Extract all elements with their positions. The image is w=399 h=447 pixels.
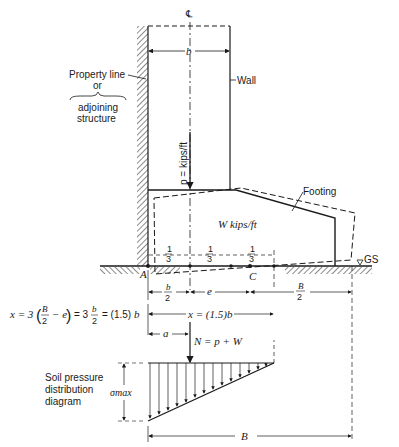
svg-text:2: 2 xyxy=(92,316,97,326)
property-line-label: Property line or adjoining structure xyxy=(69,69,146,124)
svg-text:2: 2 xyxy=(297,292,302,302)
svg-text:b: b xyxy=(134,308,140,320)
ground-surface-label: GS xyxy=(364,254,379,265)
svg-text:3: 3 xyxy=(207,254,212,264)
svg-text:B: B xyxy=(241,430,248,442)
load-label: p = kips/ft xyxy=(178,142,189,185)
eccentricity-dimension: b 2 e B 2 xyxy=(148,266,352,440)
svg-text:1: 1 xyxy=(250,244,255,254)
svg-text:e: e xyxy=(207,285,212,297)
load-arrow: p = kips/ft xyxy=(178,132,190,188)
svg-text:2: 2 xyxy=(165,293,170,303)
base-width-dimension: B xyxy=(148,426,351,442)
resultant-arrow: N = p + W xyxy=(190,322,243,362)
sigma-max-dimension: σmax xyxy=(110,363,145,421)
svg-text:): ) xyxy=(66,307,71,324)
svg-text:1: 1 xyxy=(167,244,172,254)
svg-text:diagram: diagram xyxy=(45,396,81,407)
property-line-hatch xyxy=(137,26,148,266)
wall-width-label: b xyxy=(186,45,192,57)
svg-text:structure: structure xyxy=(77,113,116,124)
svg-text:3: 3 xyxy=(249,254,254,264)
svg-text:B: B xyxy=(42,304,48,314)
svg-text:distribution: distribution xyxy=(45,384,93,395)
svg-text:σmax: σmax xyxy=(110,387,132,398)
svg-text:Property line: Property line xyxy=(69,69,126,80)
svg-text:B: B xyxy=(298,281,304,291)
svg-text:1: 1 xyxy=(208,244,213,254)
wall-label: Wall xyxy=(237,75,256,86)
svg-text:or: or xyxy=(93,80,103,91)
svg-text:adjoining: adjoining xyxy=(78,102,118,113)
svg-text:3: 3 xyxy=(166,254,171,264)
svg-text:Soil pressure: Soil pressure xyxy=(45,372,104,383)
svg-text:N = p + W: N = p + W xyxy=(193,335,243,347)
soil-pressure-diagram: Soil pressure distribution diagram xyxy=(45,340,274,421)
point-a-label: A xyxy=(139,268,147,280)
footing-dashed xyxy=(154,188,355,274)
svg-text:x = 3: x = 3 xyxy=(9,308,34,320)
svg-text:2: 2 xyxy=(42,316,47,326)
a-dimension: a xyxy=(149,327,188,339)
svg-text:= 3: = 3 xyxy=(74,309,89,320)
svg-text:b: b xyxy=(166,282,171,292)
svg-text:b: b xyxy=(92,304,97,314)
footing-diagram: ℄ Wall b Property line or adjoining stru… xyxy=(0,0,399,447)
centerline-symbol: ℄ xyxy=(185,8,193,19)
point-c-label: C xyxy=(249,270,257,282)
x-equation: x = 3 ( B 2 − e ) = 3 b 2 = (1.5) b xyxy=(9,304,140,326)
svg-text:x = (1.5)b: x = (1.5)b xyxy=(187,308,233,321)
point-c xyxy=(248,264,252,268)
footing-weight-label: W kips/ft xyxy=(218,218,258,230)
svg-text:a: a xyxy=(163,327,169,339)
wall-width-dimension: b xyxy=(149,45,229,57)
svg-text:= (1.5): = (1.5) xyxy=(102,309,131,320)
footing-label: Footing xyxy=(303,186,336,197)
svg-text:− e: − e xyxy=(52,308,67,320)
